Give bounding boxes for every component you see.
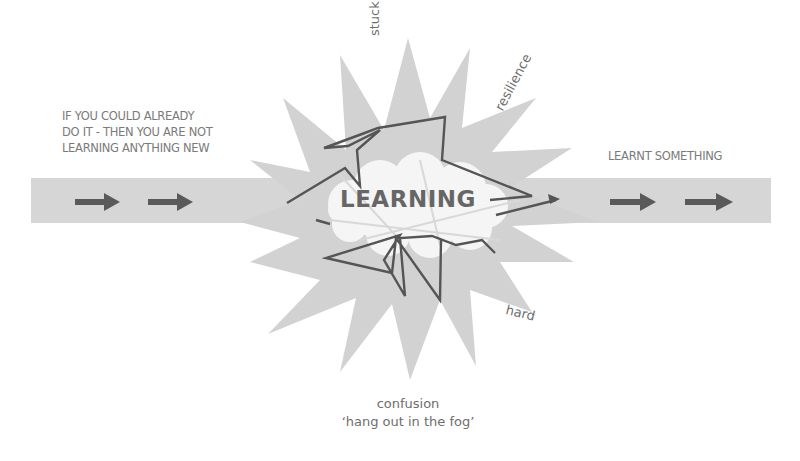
caption-confusion: confusion — [8, 396, 800, 411]
diagram-graphic — [0, 0, 800, 461]
learning-diagram: IF YOU COULD ALREADY DO IT - THEN YOU AR… — [0, 0, 800, 461]
learning-title: LEARNING — [340, 186, 476, 212]
caption-fog: ‘hang out in the fog’ — [8, 414, 800, 429]
prior-knowledge-line-2: DO IT - THEN YOU ARE NOT — [62, 124, 212, 140]
prior-knowledge-line-1: IF YOU COULD ALREADY — [62, 108, 212, 124]
prior-knowledge-note: IF YOU COULD ALREADY DO IT - THEN YOU AR… — [62, 108, 212, 156]
prior-knowledge-line-3: LEARNING ANYTHING NEW — [62, 140, 212, 156]
word-stuck: stuck — [367, 1, 382, 36]
outcome-note: LEARNT SOMETHING — [608, 148, 722, 164]
